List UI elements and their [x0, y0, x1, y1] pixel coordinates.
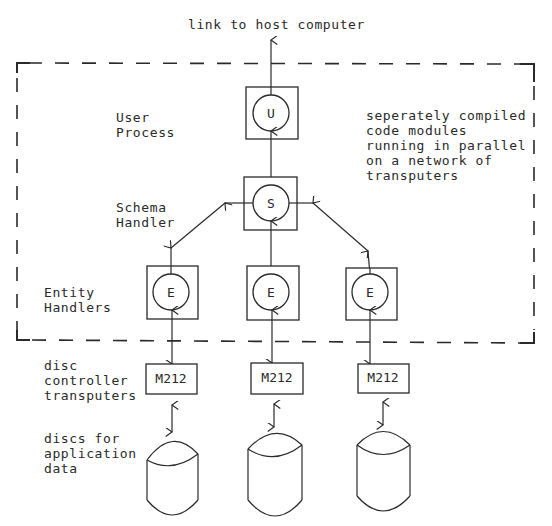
svg-text:discs for: discs for — [44, 431, 120, 446]
svg-text:Entity: Entity — [44, 285, 95, 300]
entity-handlers-label: Entity Handlers — [44, 285, 111, 315]
svg-text:data: data — [44, 461, 78, 476]
entity-handler-node-3: E — [346, 268, 397, 320]
schema-entity-right-link — [289, 203, 370, 275]
user-process-label: User Process — [116, 110, 175, 140]
entity-node-label: E — [366, 285, 374, 300]
host-link-label: link to host computer — [188, 17, 365, 32]
svg-text:Handlers: Handlers — [44, 300, 111, 315]
svg-text:running in parallel: running in parallel — [366, 138, 526, 153]
disc-controller-1: M212 — [146, 364, 197, 394]
transputer-architecture-diagram: link to host computer U S — [0, 0, 552, 526]
controller-label: M212 — [155, 371, 186, 386]
entity-node-label: E — [267, 285, 275, 300]
disc-controller-3: M212 — [358, 364, 409, 393]
svg-text:Schema: Schema — [116, 200, 167, 215]
schema-entity-left-link — [171, 203, 253, 275]
svg-text:transputers: transputers — [366, 168, 459, 183]
svg-text:Handler: Handler — [116, 215, 175, 230]
svg-text:User: User — [116, 110, 150, 125]
disc-controller-2: M212 — [251, 363, 303, 394]
user-process-node: U — [246, 87, 298, 139]
schema-handler-label: Schema Handler — [116, 200, 175, 230]
boundary-note: seperately compiled code modules running… — [366, 108, 526, 183]
entity-handler-node-2: E — [247, 266, 299, 320]
user-node-label: U — [267, 106, 275, 121]
schema-node-label: S — [267, 196, 275, 211]
disc-2 — [248, 433, 302, 516]
svg-text:Process: Process — [116, 125, 175, 140]
discs-label: discs for application data — [44, 431, 137, 476]
entity-node-label: E — [167, 285, 175, 300]
svg-text:controller: controller — [44, 373, 128, 388]
controller-label: M212 — [367, 370, 398, 385]
controller-label: M212 — [261, 370, 292, 385]
disc-1 — [147, 441, 198, 515]
disc-3 — [357, 432, 410, 512]
svg-text:seperately compiled: seperately compiled — [366, 108, 526, 123]
svg-text:on a network of: on a network of — [366, 153, 492, 168]
disc-controllers-label: disc controller transputers — [44, 358, 137, 403]
svg-text:application: application — [44, 446, 137, 461]
svg-text:transputers: transputers — [44, 388, 137, 403]
svg-text:disc: disc — [44, 358, 78, 373]
svg-text:code modules: code modules — [366, 123, 467, 138]
